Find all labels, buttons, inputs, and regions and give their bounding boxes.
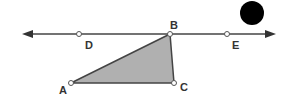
point-c <box>172 81 177 86</box>
arrow-left-icon <box>22 30 33 38</box>
arrow-right-icon <box>265 30 276 38</box>
label-b: B <box>170 20 178 31</box>
point-b <box>168 32 173 37</box>
label-e: E <box>232 40 239 51</box>
label-c: C <box>180 82 188 93</box>
point-e <box>225 32 230 37</box>
label-a: A <box>59 85 67 95</box>
label-d: D <box>85 40 93 51</box>
point-a <box>69 81 74 86</box>
geometry-diagram <box>0 0 286 95</box>
point-d <box>77 32 82 37</box>
black-dot <box>240 1 264 25</box>
